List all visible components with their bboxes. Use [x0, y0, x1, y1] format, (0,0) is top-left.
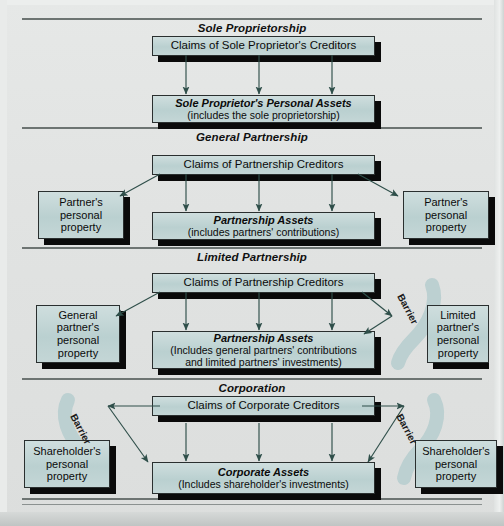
arrow-layer	[0, 0, 504, 526]
figure-canvas: Barrier Barrier Barrier Sole Proprietors…	[0, 0, 504, 526]
